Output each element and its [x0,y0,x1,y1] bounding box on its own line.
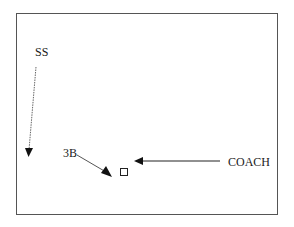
coach-arrow [134,157,220,165]
base-square-icon [120,168,128,176]
third-base-arrow [77,155,112,177]
third-base-label: 3B [63,147,77,159]
diagram-canvas [0,0,294,227]
coach-label: COACH [228,156,270,168]
ss-label: SS [35,46,48,58]
ss-arrow [25,67,36,157]
coach-arrowhead-icon [134,157,143,165]
third-base-arrowhead-icon [101,166,112,177]
ss-arrowhead-icon [25,148,33,157]
